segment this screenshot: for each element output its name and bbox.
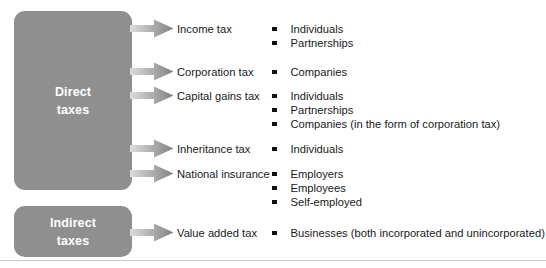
list-item: Self-employed	[272, 196, 362, 209]
payer-label: Individuals	[291, 90, 344, 102]
arrow-icon-income-tax	[130, 19, 174, 38]
bullet-square-icon	[272, 231, 277, 236]
payer-label: Companies (in the form of corporation ta…	[291, 118, 501, 130]
payer-label: Partnerships	[291, 37, 354, 49]
payer-label: Employers	[291, 168, 344, 180]
bullet-square-icon	[272, 108, 277, 113]
group-box-direct-taxes: Direct taxes	[14, 11, 132, 190]
payer-label: Individuals	[291, 23, 344, 35]
bullet-square-icon	[272, 27, 277, 32]
bullet-square-icon	[272, 122, 277, 127]
list-item: Companies (in the form of corporation ta…	[272, 118, 500, 131]
list-item: Partnerships	[272, 37, 353, 50]
bullet-square-icon	[272, 41, 277, 46]
payer-label: Individuals	[291, 143, 344, 155]
tax-label-capital-gains-tax: Capital gains tax	[177, 90, 260, 103]
tax-types-diagram: Direct taxes Indirect taxes	[0, 0, 546, 268]
tax-label-income-tax: Income tax	[177, 23, 232, 36]
bottom-divider	[0, 260, 546, 261]
group-label-line-1: Indirect	[50, 214, 96, 232]
arrow-icon-value-added-tax	[130, 223, 174, 242]
list-item: Individuals	[272, 143, 343, 156]
list-item: Businesses (both incorporated and uninco…	[272, 227, 545, 240]
group-label-line-2: taxes	[57, 101, 89, 119]
bullet-square-icon	[272, 147, 277, 152]
bullet-square-icon	[272, 200, 277, 205]
list-item: Individuals	[272, 23, 343, 36]
payer-label: Self-employed	[291, 196, 363, 208]
bullet-square-icon	[272, 172, 277, 177]
payer-label: Businesses (both incorporated and uninco…	[291, 227, 545, 239]
list-item: Companies	[272, 66, 347, 79]
group-label-line-1: Direct	[55, 83, 91, 101]
list-item: Partnerships	[272, 104, 353, 117]
tax-label-corporation-tax: Corporation tax	[177, 66, 254, 79]
tax-label-inheritance-tax: Inheritance tax	[177, 143, 250, 156]
group-box-indirect-taxes: Indirect taxes	[14, 206, 132, 257]
payer-label: Partnerships	[291, 104, 354, 116]
bullet-square-icon	[272, 70, 277, 75]
list-item: Employers	[272, 168, 343, 181]
tax-label-value-added-tax: Value added tax	[177, 227, 257, 240]
arrow-icon-corporation-tax	[130, 62, 174, 81]
list-item: Individuals	[272, 90, 343, 103]
payer-label: Employees	[291, 182, 346, 194]
tax-label-national-insurance: National insurance	[177, 168, 270, 181]
group-label-line-2: taxes	[57, 232, 89, 250]
bullet-square-icon	[272, 94, 277, 99]
arrow-icon-capital-gains-tax	[130, 86, 174, 105]
arrow-icon-national-insurance	[130, 164, 174, 183]
payer-label: Companies	[291, 66, 348, 78]
bullet-square-icon	[272, 186, 277, 191]
list-item: Employees	[272, 182, 346, 195]
arrow-icon-inheritance-tax	[130, 139, 174, 158]
